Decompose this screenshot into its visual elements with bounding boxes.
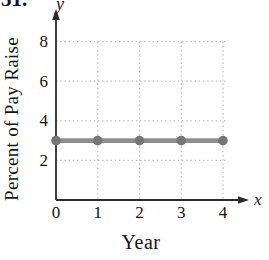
data-point-1 xyxy=(93,136,103,146)
x-tick-label-4: 4 xyxy=(219,203,228,222)
data-point-0 xyxy=(51,136,61,146)
chart-canvas: 246801234 xyxy=(0,0,269,260)
y-axis-arrowhead xyxy=(52,9,60,20)
x-tick-label-0: 0 xyxy=(52,203,61,222)
x-tick-label-1: 1 xyxy=(94,203,103,222)
y-tick-label-6: 6 xyxy=(40,72,49,91)
x-tick-label-2: 2 xyxy=(135,203,144,222)
data-point-4 xyxy=(218,136,228,146)
data-point-2 xyxy=(135,136,145,146)
graph-figure: 31. y x Percent of Pay Raise Year 246801… xyxy=(0,0,269,260)
x-tick-label-3: 3 xyxy=(177,203,186,222)
y-tick-label-8: 8 xyxy=(40,32,49,51)
y-tick-label-4: 4 xyxy=(40,111,49,130)
data-point-3 xyxy=(176,136,186,146)
x-axis-arrowhead xyxy=(238,196,249,204)
y-tick-label-2: 2 xyxy=(40,151,49,170)
